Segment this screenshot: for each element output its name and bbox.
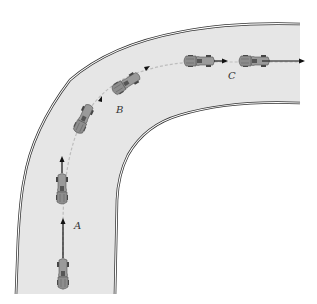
label-a: A — [73, 220, 81, 231]
car-a2 — [56, 174, 68, 205]
figure: A B C — [0, 0, 317, 304]
label-b: B — [115, 104, 123, 115]
car-a1 — [57, 259, 69, 290]
car-c1 — [184, 55, 215, 67]
label-c: C — [228, 70, 236, 81]
road-diagram: A B C — [0, 0, 317, 304]
